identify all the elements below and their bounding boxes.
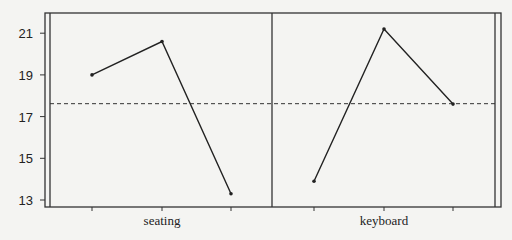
series-line-seating (92, 42, 231, 194)
y-tick-label: 13 (19, 193, 33, 208)
data-point (312, 179, 316, 183)
y-tick-label: 21 (19, 26, 33, 41)
data-point (451, 102, 455, 106)
plot-frame (45, 13, 501, 207)
data-point (382, 27, 386, 31)
data-point (160, 40, 164, 44)
series-line-keyboard (314, 29, 453, 181)
y-tick-label: 17 (19, 110, 33, 125)
panel-label-seating: seating (144, 213, 181, 228)
y-tick-label: 15 (19, 151, 33, 166)
data-point (90, 73, 94, 77)
chart: 1315171921 seating keyboard (0, 0, 512, 240)
panel-label-keyboard: keyboard (360, 213, 409, 228)
data-point (229, 192, 233, 196)
y-tick-label: 19 (19, 68, 33, 83)
y-axis: 1315171921 (19, 26, 45, 208)
